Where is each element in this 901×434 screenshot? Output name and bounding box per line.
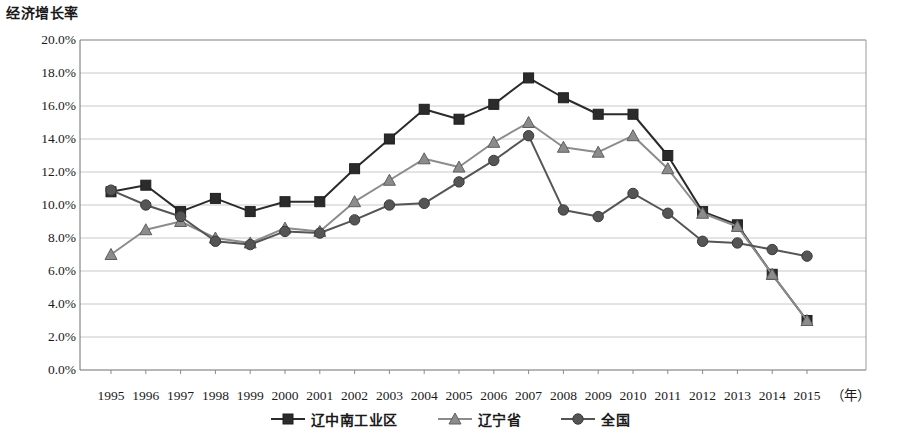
y-axis-labels: 20.0%18.0%16.0%14.0%12.0%10.0%8.0%6.0%4.… <box>0 0 76 434</box>
data-point <box>210 193 220 203</box>
y-axis-tick-label: 18.0% <box>12 66 76 80</box>
x-axis-tick-label: 2000 <box>272 389 299 403</box>
x-axis-tick-label: 2015 <box>794 389 821 403</box>
y-axis-tick-label: 10.0% <box>12 198 76 212</box>
plot-canvas <box>0 0 901 434</box>
x-axis-tick-label: 2013 <box>724 389 751 403</box>
gridlines <box>80 40 866 337</box>
x-axis-tick-label: 2004 <box>411 389 438 403</box>
data-point <box>557 141 569 152</box>
economic-growth-rate-chart: 经济增长率 20.0%18.0%16.0%14.0%12.0%10.0%8.0%… <box>0 0 901 434</box>
data-point <box>210 236 220 246</box>
x-axis-tick-label: 1999 <box>237 389 264 403</box>
data-point <box>489 155 499 165</box>
x-axis-tick-label: 2009 <box>585 389 612 403</box>
data-point <box>350 164 360 174</box>
data-point <box>315 197 325 207</box>
x-axis-unit-label: （年） <box>831 389 870 403</box>
data-point <box>141 180 151 190</box>
x-axis-tick-label: 2003 <box>376 389 403 403</box>
data-point <box>454 177 464 187</box>
data-point <box>175 211 185 221</box>
series-triangle <box>105 117 813 326</box>
x-axis-tick-label: 2002 <box>341 389 368 403</box>
y-axis-tick-label: 16.0% <box>12 99 76 113</box>
x-axis-tick-label: 2007 <box>515 389 542 403</box>
y-axis-tick-label: 6.0% <box>12 264 76 278</box>
data-point <box>280 226 290 236</box>
x-axis-tick-label: 2011 <box>655 389 682 403</box>
x-axis-tick-label: 1998 <box>202 389 229 403</box>
data-point <box>418 153 430 164</box>
x-axis-tick-label: 2001 <box>306 389 333 403</box>
data-point <box>105 249 117 260</box>
x-axis-tick-label: 2006 <box>480 389 507 403</box>
legend-label: 全国 <box>601 409 630 429</box>
data-point <box>349 215 359 225</box>
data-point <box>558 93 568 103</box>
data-point <box>593 109 603 119</box>
x-axis-tick-label: 2014 <box>759 389 786 403</box>
x-axis-tick-label: 2008 <box>550 389 577 403</box>
data-point <box>454 114 464 124</box>
data-point <box>419 104 429 114</box>
data-point <box>663 208 673 218</box>
y-axis-tick-label: 2.0% <box>12 330 76 344</box>
legend-label: 辽宁省 <box>478 409 522 429</box>
data-point <box>524 73 534 83</box>
circle-marker-icon <box>561 412 595 426</box>
data-point <box>802 251 812 261</box>
data-point <box>732 238 742 248</box>
legend-item-2[interactable]: 辽宁省 <box>438 409 522 429</box>
series-layer <box>105 73 813 326</box>
data-point <box>489 99 499 109</box>
y-axis-tick-label: 20.0% <box>12 33 76 47</box>
square-marker-icon <box>271 412 305 426</box>
y-axis-tick-label: 0.0% <box>12 363 76 377</box>
data-point <box>315 228 325 238</box>
data-point <box>697 236 707 246</box>
data-point <box>628 188 638 198</box>
data-point <box>384 134 394 144</box>
data-point <box>523 131 533 141</box>
x-axis-tick-label: 2012 <box>689 389 716 403</box>
y-axis-tick-label: 4.0% <box>12 297 76 311</box>
x-axis-tick-label: 2010 <box>620 389 647 403</box>
data-point <box>663 151 673 161</box>
x-axis-tick-label: 1996 <box>132 389 159 403</box>
x-axis-ticks <box>111 370 807 374</box>
data-point <box>384 200 394 210</box>
data-point <box>141 200 151 210</box>
data-point <box>627 130 639 141</box>
x-axis-tick-label: 1995 <box>98 389 125 403</box>
data-point <box>488 136 500 147</box>
y-axis-tick-label: 12.0% <box>12 165 76 179</box>
data-point <box>383 174 395 185</box>
data-point <box>245 239 255 249</box>
legend-label: 辽中南工业区 <box>311 409 398 429</box>
triangle-marker-icon <box>438 412 472 426</box>
data-point <box>106 185 116 195</box>
chart-legend: 辽中南工业区辽宁省全国 <box>0 409 901 429</box>
legend-item-3[interactable]: 全国 <box>561 409 630 429</box>
data-point <box>419 198 429 208</box>
data-point <box>523 117 535 128</box>
data-point <box>558 205 568 215</box>
series-square <box>106 73 812 326</box>
data-point <box>349 196 361 207</box>
legend-item-1[interactable]: 辽中南工业区 <box>271 409 398 429</box>
x-axis-tick-label: 1997 <box>167 389 194 403</box>
data-point <box>280 197 290 207</box>
data-point <box>628 109 638 119</box>
y-axis-tick-label: 14.0% <box>12 132 76 146</box>
data-point <box>767 244 777 254</box>
y-axis-tick-label: 8.0% <box>12 231 76 245</box>
data-point <box>245 207 255 217</box>
data-point <box>593 211 603 221</box>
x-axis-tick-label: 2005 <box>446 389 473 403</box>
